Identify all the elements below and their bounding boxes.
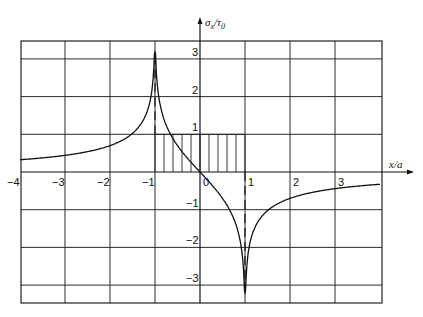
peak-cap bbox=[154, 52, 155, 53]
y-tick-label: 3 bbox=[192, 46, 198, 58]
y-tick-label: 1 bbox=[192, 121, 198, 133]
x-tick-label: 2 bbox=[293, 176, 299, 188]
x-axis-label: x/a bbox=[388, 158, 403, 170]
x-axis-arrow-icon bbox=[407, 170, 414, 175]
tick-labels: −4−3−2−10123321−1−2−3 bbox=[7, 46, 344, 284]
y-axis-label: σx/τ0 bbox=[205, 16, 225, 31]
x-tick-label: 0 bbox=[203, 176, 209, 188]
x-tick-label: −1 bbox=[142, 176, 155, 188]
trough-cap bbox=[244, 291, 245, 293]
x-tick-label: −3 bbox=[52, 176, 65, 188]
y-axis-arrow-icon bbox=[198, 17, 203, 24]
x-tick-label: 1 bbox=[248, 176, 254, 188]
y-tick-label: −1 bbox=[186, 197, 199, 209]
x-tick-label: −2 bbox=[97, 176, 110, 188]
stress-distribution-chart: −4−3−2−10123321−1−2−3 σx/τ0 x/a bbox=[0, 0, 423, 317]
y-tick-label: 2 bbox=[192, 84, 198, 96]
y-tick-label: −2 bbox=[186, 234, 199, 246]
y-tick-label: −3 bbox=[186, 272, 199, 284]
x-tick-label: 3 bbox=[338, 176, 344, 188]
stress-curve-left bbox=[20, 53, 155, 160]
stress-curve-right bbox=[246, 184, 381, 290]
x-tick-label: −4 bbox=[7, 176, 20, 188]
